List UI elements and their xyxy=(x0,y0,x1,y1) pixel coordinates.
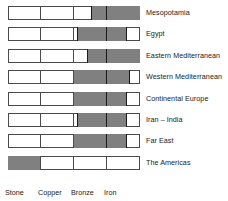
bar-fill-segment xyxy=(91,6,141,20)
bar-fill-segment xyxy=(74,70,130,84)
bar-row xyxy=(8,92,140,106)
fill-end-edge xyxy=(126,92,127,106)
segment-divider xyxy=(106,27,107,41)
segment-divider xyxy=(73,49,74,63)
segment-divider xyxy=(40,70,41,84)
bar-fill-segment xyxy=(77,27,127,41)
bar-fill-segment xyxy=(77,113,127,127)
axis-label-iron: Iron xyxy=(104,188,116,197)
axis-label-copper: Copper xyxy=(38,188,62,197)
segment-divider xyxy=(40,156,41,170)
region-label: Eastern Mediterranean xyxy=(146,52,220,60)
segment-divider xyxy=(40,27,41,41)
segment-divider xyxy=(40,134,41,148)
segment-divider xyxy=(73,27,74,41)
axis-label-stone: Stone xyxy=(5,188,24,197)
bar-row xyxy=(8,70,140,84)
region-label: The Americas xyxy=(146,159,191,167)
segment-divider xyxy=(106,156,107,170)
segment-divider xyxy=(106,92,107,106)
axis-label-bronze: Bronze xyxy=(71,188,94,197)
segment-divider xyxy=(73,92,74,106)
segment-divider xyxy=(40,113,41,127)
bar-fill-segment xyxy=(74,92,127,106)
segment-divider xyxy=(106,134,107,148)
bar-fill-segment xyxy=(74,134,127,148)
region-label: Western Mediterranean xyxy=(146,73,222,81)
segment-divider xyxy=(106,70,107,84)
segment-divider xyxy=(106,6,107,20)
age-timeline-chart: MesopotamiaEgyptEastern MediterraneanWes… xyxy=(0,0,228,201)
bar-fill-segment xyxy=(8,156,41,170)
segment-divider xyxy=(40,6,41,20)
fill-end-edge xyxy=(126,134,127,148)
bar-row xyxy=(8,113,140,127)
bar-fill-segment xyxy=(87,49,140,63)
bar-row xyxy=(8,156,140,170)
bar-row xyxy=(8,134,140,148)
fill-end-edge xyxy=(129,70,130,84)
segment-divider xyxy=(73,113,74,127)
region-label: Egypt xyxy=(146,30,165,38)
segment-divider xyxy=(73,156,74,170)
bar-row xyxy=(8,6,140,20)
region-label: Continental Europe xyxy=(146,95,208,103)
segment-divider xyxy=(106,49,107,63)
fill-start-edge xyxy=(77,113,78,127)
segment-divider xyxy=(73,134,74,148)
fill-start-edge xyxy=(87,49,88,63)
segment-divider xyxy=(40,49,41,63)
segment-divider xyxy=(40,92,41,106)
region-label: Iran – India xyxy=(146,116,183,124)
region-label: Far East xyxy=(146,137,174,145)
bar-row xyxy=(8,49,140,63)
fill-start-edge xyxy=(77,27,78,41)
fill-end-edge xyxy=(126,113,127,127)
segment-divider xyxy=(73,6,74,20)
segment-divider xyxy=(106,113,107,127)
bar-row xyxy=(8,27,140,41)
fill-end-edge xyxy=(126,27,127,41)
region-label: Mesopotamia xyxy=(146,9,190,17)
fill-start-edge xyxy=(91,6,92,20)
segment-divider xyxy=(73,70,74,84)
